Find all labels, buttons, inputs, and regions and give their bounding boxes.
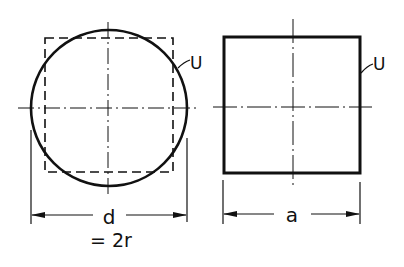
dimension-label-a: a	[286, 203, 298, 227]
dimension-label-d: d	[103, 205, 116, 229]
perimeter-label-circle: U	[190, 53, 202, 73]
square-outline	[224, 37, 360, 173]
dimension-note-2r: = 2r	[90, 229, 132, 251]
perimeter-leader	[361, 64, 373, 73]
circle-view: U d = 2r	[18, 22, 202, 251]
diagram-canvas: U d = 2r U a	[0, 0, 404, 267]
perimeter-leader	[178, 60, 190, 68]
perimeter-label-square: U	[373, 54, 385, 74]
dashed-square-outline	[45, 38, 173, 172]
square-view: U a	[213, 19, 385, 227]
